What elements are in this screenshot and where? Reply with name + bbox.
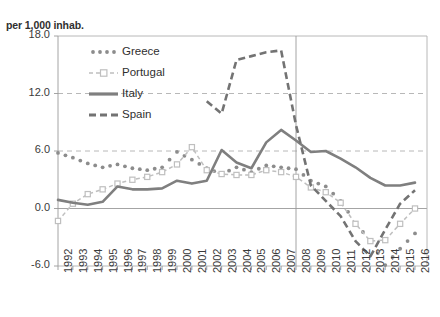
x-axis-tick-label: 2004 [241,249,253,273]
data-point-greece [93,163,97,167]
data-point-greece [316,182,320,186]
legend-marker-greece [112,50,116,54]
data-marker-portugal [55,218,60,223]
y-axis-tick-label: 12.0 [4,86,50,98]
data-point-greece [123,164,127,168]
x-axis-tick-label: 2015 [404,249,416,273]
data-point-greece [287,166,291,170]
data-marker-portugal [398,221,403,226]
data-marker-portugal [368,238,373,243]
data-marker-portugal [383,238,388,243]
data-point-greece [406,239,410,243]
x-axis-tick-label: 1997 [136,249,148,273]
x-axis-tick-label: 1993 [77,249,89,273]
x-axis-tick-label: 2000 [181,249,193,273]
data-marker-portugal [234,172,239,177]
data-point-greece [138,167,142,171]
y-axis-tick-label: -6.0 [4,258,50,270]
x-axis-tick-label: 2010 [330,249,342,273]
data-point-greece [302,173,306,177]
data-point-greece [78,159,82,163]
x-axis-tick-label: 2002 [211,249,223,273]
data-point-greece [64,153,68,157]
data-point-greece [294,167,298,171]
x-axis-tick-label: 2003 [226,249,238,273]
series-line-spain [207,50,415,256]
data-marker-portugal [293,174,298,179]
x-axis-tick-label: 2005 [255,249,267,273]
data-point-greece [101,165,105,169]
x-axis-tick-label: 1992 [62,249,74,273]
x-axis-tick-label: 1999 [166,249,178,273]
data-point-greece [56,151,60,155]
x-axis-tick-label: 2011 [345,249,357,273]
data-point-greece [264,163,268,167]
x-axis-tick-label: 2014 [389,249,401,273]
data-point-greece [197,162,201,166]
x-axis-tick-label: 2012 [360,249,372,273]
data-marker-portugal [279,169,284,174]
x-axis-tick-label: 2009 [315,249,327,273]
x-axis-tick-label: 1994 [92,249,104,273]
data-marker-portugal [323,190,328,195]
data-marker-portugal [338,200,343,205]
x-axis-tick-label: 2008 [300,249,312,273]
data-marker-portugal [130,177,135,182]
axis-lines [54,36,427,270]
legend-label-greece: Greece [122,45,160,57]
legend-label-italy: Italy [122,87,143,99]
x-axis-tick-label: 1995 [107,249,119,273]
data-point-greece [257,167,261,171]
data-point-greece [272,164,276,168]
x-axis-tick-label: 2013 [374,249,386,273]
data-point-greece [175,150,179,154]
data-marker-portugal [85,192,90,197]
data-marker-portugal [189,145,194,150]
legend-marker-greece [98,50,102,54]
data-point-greece [324,185,328,189]
x-axis-tick-label: 2007 [285,249,297,273]
data-marker-portugal [174,162,179,167]
x-axis-tick-label: 2016 [419,249,431,273]
data-point-greece [235,165,239,169]
data-point-greece [190,158,194,162]
x-axis-tick-label: 2006 [270,249,282,273]
data-marker-portugal [160,169,165,174]
chart-container: per 1,000 inhab. -6.00.06.012.018.0 1992… [0,0,440,317]
data-point-greece [413,232,417,236]
legend-label-spain: Spain [122,108,151,120]
legend-marker-greece [105,50,109,54]
data-marker-portugal [204,168,209,173]
legend-label-portugal: Portugal [122,66,165,78]
y-axis-tick-label: 0.0 [4,201,50,213]
data-point-greece [279,165,283,169]
data-point-greece [168,158,172,162]
y-axis-tick-label: 18.0 [4,28,50,40]
data-marker-portugal [412,206,417,211]
data-point-greece [116,163,120,167]
data-marker-portugal [219,171,224,176]
legend-marker-square-portugal [101,70,107,76]
x-axis-tick-label: 1998 [151,249,163,273]
data-marker-portugal [145,174,150,179]
data-point-greece [242,168,246,172]
y-axis-tick-label: 6.0 [4,143,50,155]
x-axis-tick-label: 1996 [122,249,134,273]
legend-marker-greece [91,50,95,54]
data-point-greece [145,168,149,172]
data-marker-portugal [353,221,358,226]
data-point-greece [153,167,157,171]
x-axis-tick-label: 2001 [196,249,208,273]
data-marker-portugal [264,168,269,173]
data-point-greece [130,166,134,170]
data-point-greece [160,165,164,169]
data-marker-portugal [249,172,254,177]
legend-markers [89,50,118,115]
data-point-greece [331,192,335,196]
data-point-greece [86,162,90,166]
data-point-greece [227,169,231,173]
data-point-greece [71,156,75,160]
data-point-greece [108,164,112,168]
data-series-layer [55,50,417,267]
data-marker-portugal [100,187,105,192]
